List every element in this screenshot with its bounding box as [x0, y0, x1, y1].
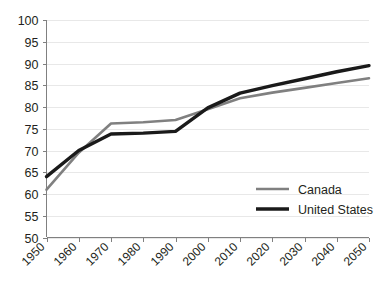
- y-tick-label-70: 70: [25, 145, 39, 159]
- x-tick-label-2010: 2010: [212, 239, 241, 268]
- y-tick-label-65: 65: [25, 166, 39, 180]
- x-tick-label-1980: 1980: [115, 239, 144, 268]
- legend-label-canada: Canada: [298, 183, 342, 197]
- y-tick-label-90: 90: [25, 58, 39, 72]
- y-tick-label-100: 100: [18, 14, 39, 28]
- line-chart: 50556065707580859095100 1950196019701980…: [0, 0, 376, 282]
- data-series: [47, 66, 370, 190]
- y-tick-labels: 50556065707580859095100: [18, 14, 39, 246]
- chart-canvas: 50556065707580859095100 1950196019701980…: [0, 0, 376, 282]
- x-tick-label-1970: 1970: [83, 239, 112, 268]
- chart-legend: CanadaUnited States: [256, 183, 373, 217]
- y-tick-label-80: 80: [25, 101, 39, 115]
- x-tick-label-2020: 2020: [244, 239, 273, 268]
- x-tick-label-1960: 1960: [51, 239, 80, 268]
- series-line-united-states: [47, 66, 370, 177]
- x-tick-label-1990: 1990: [148, 239, 177, 268]
- x-tick-labels: 1950196019701980199020002010202020302040…: [19, 239, 370, 268]
- x-tick-label-2030: 2030: [277, 239, 306, 268]
- y-tick-label-85: 85: [25, 79, 39, 93]
- legend-label-united-states: United States: [298, 203, 373, 217]
- y-tick-label-75: 75: [25, 123, 39, 137]
- y-tick-label-55: 55: [25, 210, 39, 224]
- x-tick-label-2050: 2050: [341, 239, 370, 268]
- x-tick-label-2040: 2040: [309, 239, 338, 268]
- x-tick-label-2000: 2000: [180, 239, 209, 268]
- y-tick-label-95: 95: [25, 36, 39, 50]
- x-tick-label-1950: 1950: [19, 239, 48, 268]
- y-tick-label-60: 60: [25, 188, 39, 202]
